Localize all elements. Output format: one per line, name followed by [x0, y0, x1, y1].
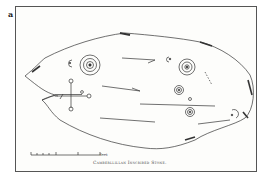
scale-bar: [31, 152, 100, 155]
cup-and-ring-4: [186, 108, 195, 117]
cup-and-ring-1: [80, 55, 100, 75]
scale-unit: feet: [100, 152, 107, 157]
figure-caption: Camberllillan Inscribed Stone.: [93, 160, 167, 165]
inscribed-stone-drawing: [0, 0, 273, 183]
cup-and-ring-3: [175, 86, 184, 95]
cup-and-ring-2: [179, 59, 195, 75]
incised-cross: [55, 79, 91, 111]
